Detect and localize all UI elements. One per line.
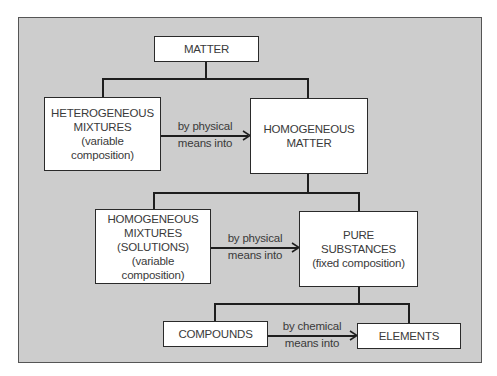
connector-matter-bar <box>102 78 309 80</box>
node-label: composition) <box>122 268 185 282</box>
node-homogeneous-mixtures: HOMOGENEOUS MIXTURES (SOLUTIONS) (variab… <box>95 209 211 284</box>
node-label: PURE <box>343 228 374 242</box>
node-label: MATTER <box>184 42 229 56</box>
connector-to-pure-substances <box>358 192 360 212</box>
node-pure-substances: PURE SUBSTANCES (fixed composition) <box>299 211 418 287</box>
node-compounds: COMPOUNDS <box>163 321 268 347</box>
node-label: MIXTURES <box>124 226 182 240</box>
node-label: (SOLUTIONS) <box>117 240 189 254</box>
node-label: (variable <box>81 134 123 148</box>
arrow-label-line: means into <box>162 135 248 152</box>
arrow-label-line: by chemical <box>267 318 357 335</box>
connector-to-homogeneous-mixtures <box>153 192 155 210</box>
connector-to-heterogeneous <box>102 78 104 98</box>
connector-pure-substances-bar <box>214 303 409 305</box>
connector-matter-stem <box>205 61 207 79</box>
connector-to-elements <box>408 303 410 324</box>
node-homogeneous-matter: HOMOGENEOUS MATTER <box>250 98 368 174</box>
arrow-label-physical-2: by physical means into <box>212 230 298 264</box>
node-label: MATTER <box>286 136 331 150</box>
node-label: MIXTURES <box>74 120 132 134</box>
node-heterogeneous-mixtures: HETEROGENEOUS MIXTURES (variable composi… <box>44 97 161 171</box>
arrow-label-chemical: by chemical means into <box>267 318 357 352</box>
node-matter: MATTER <box>154 36 259 62</box>
node-label: (variable <box>132 254 174 268</box>
node-label: SUBSTANCES <box>321 242 396 256</box>
connector-homogeneous-matter-bar <box>153 192 359 194</box>
arrow-label-physical-1: by physical means into <box>162 118 248 152</box>
connector-homogeneous-matter-stem <box>307 173 309 193</box>
node-label: HOMOGENEOUS <box>263 122 354 136</box>
diagram-panel <box>18 17 482 363</box>
connector-pure-substances-stem <box>358 286 360 304</box>
node-label: COMPOUNDS <box>178 327 252 341</box>
arrow-label-line: means into <box>267 335 357 352</box>
node-label: HETEROGENEOUS <box>51 106 154 120</box>
node-label: composition) <box>71 148 134 162</box>
node-elements: ELEMENTS <box>357 323 461 349</box>
arrow-label-line: means into <box>212 247 298 264</box>
arrow-label-line: by physical <box>212 230 298 247</box>
node-label: (fixed composition) <box>312 256 405 270</box>
node-label: HOMOGENEOUS <box>107 212 198 226</box>
connector-to-homogeneous-matter <box>307 78 309 99</box>
arrow-label-line: by physical <box>162 118 248 135</box>
node-label: ELEMENTS <box>379 329 439 343</box>
connector-to-compounds <box>214 303 216 322</box>
